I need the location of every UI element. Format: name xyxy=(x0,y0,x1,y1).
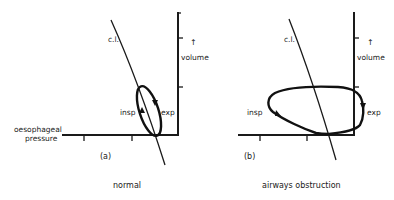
panel-b-exp-label: exp xyxy=(367,108,381,117)
panel-b-y-label: volume xyxy=(357,53,385,62)
panel-a-compliance-label: c.l. xyxy=(108,35,119,44)
panel-a-caption: normal xyxy=(113,181,141,190)
panel-b-compliance-label: c.l. xyxy=(284,35,295,44)
x-axis-label: oesophageal pressure xyxy=(14,125,62,143)
panel-b-up-arrow-icon: ↑ xyxy=(367,38,374,47)
panel-a-y-label: volume xyxy=(181,53,209,62)
panel-b-compliance-line xyxy=(289,19,336,160)
panel-b-insp-arrow-icon xyxy=(275,110,281,116)
x-axis-label-line1: oesophageal xyxy=(14,125,62,134)
x-axis-label-line2: pressure xyxy=(25,134,58,143)
panel-b-letter: (b) xyxy=(244,152,255,161)
panel-b-insp-label: insp xyxy=(247,108,263,117)
figure-canvas: oesophageal pressure c.l. insp exp xyxy=(0,0,394,200)
panel-a-insp-label: insp xyxy=(120,108,136,117)
panel-b-exp-arrow-icon xyxy=(360,103,366,110)
panel-b: c.l. insp exp ↑ volume (b) airways obstr… xyxy=(238,12,385,190)
panel-a-up-arrow-icon: ↑ xyxy=(190,38,197,47)
panel-a: c.l. insp exp ↑ volume (a) normal xyxy=(62,12,209,190)
panel-b-caption: airways obstruction xyxy=(262,181,341,190)
pressure-volume-figure: oesophageal pressure c.l. insp exp xyxy=(0,0,394,200)
panel-a-exp-label: exp xyxy=(161,108,175,117)
panel-a-letter: (a) xyxy=(100,152,111,161)
